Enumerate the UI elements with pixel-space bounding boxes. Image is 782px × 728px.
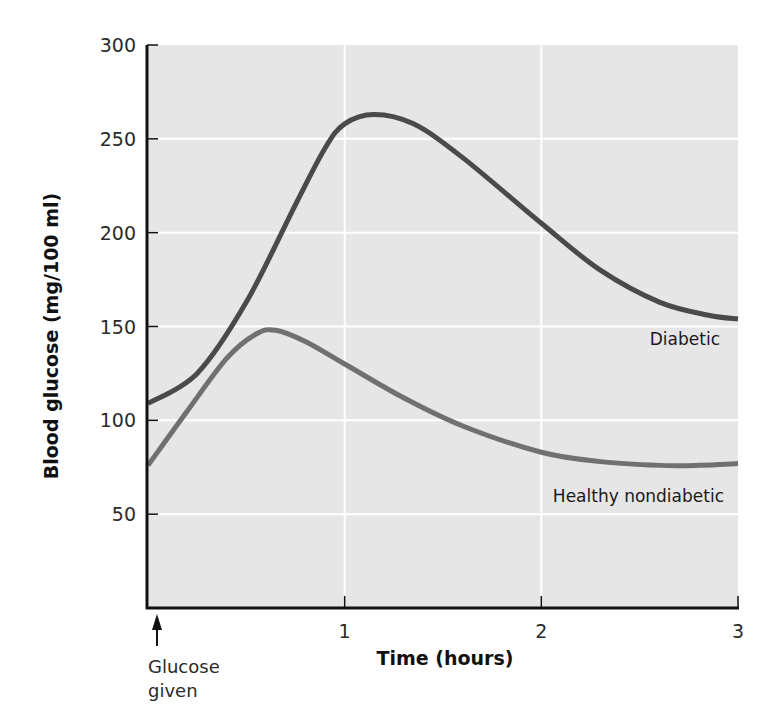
- x-tick-label: 3: [732, 620, 744, 642]
- y-tick-label: 200: [100, 222, 136, 244]
- x-tick-label: 2: [535, 620, 547, 642]
- y-tick-label: 250: [100, 128, 136, 150]
- series-label-healthy: Healthy nondiabetic: [553, 486, 724, 506]
- blood-glucose-chart: 50100150200250300 123 Blood glucose (mg/…: [0, 0, 782, 728]
- x-tick-label: 1: [339, 620, 351, 642]
- y-tick-label: 300: [100, 34, 136, 56]
- y-tick-label: 50: [112, 503, 136, 525]
- y-tick-label: 100: [100, 409, 136, 431]
- annotation-line-1: Glucose: [148, 656, 220, 677]
- annotation-line-2: given: [148, 680, 198, 701]
- series-label-diabetic: Diabetic: [650, 329, 720, 349]
- y-axis-title: Blood glucose (mg/100 ml): [40, 193, 62, 479]
- y-tick-label: 150: [100, 316, 136, 338]
- x-axis-title: Time (hours): [377, 647, 514, 669]
- glucose-given-annotation: Glucose given: [148, 614, 220, 701]
- up-arrow-icon: [152, 614, 162, 646]
